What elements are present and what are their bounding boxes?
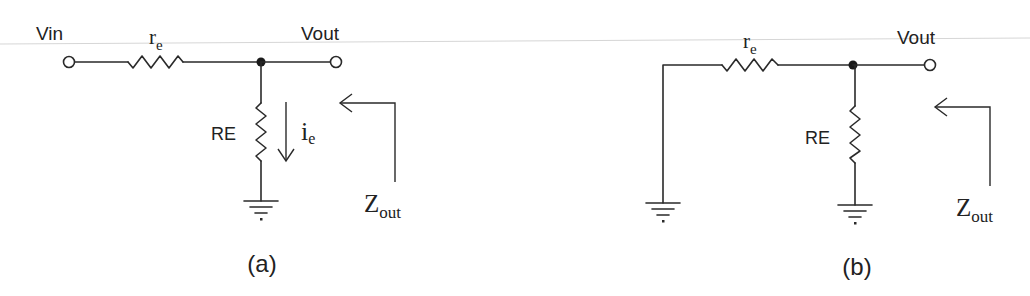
ground-icon [838, 205, 872, 225]
re-small-label: re [149, 25, 163, 53]
vout-terminal-icon [331, 57, 342, 68]
current-arrow-icon [278, 102, 294, 161]
vin-terminal-icon [64, 57, 75, 68]
panel-a: Vin re Vout RE ie [36, 23, 401, 277]
circuit-figure: Vin re Vout RE ie [0, 0, 1030, 296]
panel-b-caption: (b) [842, 253, 871, 280]
resistor-RE-icon [850, 106, 860, 163]
circuit-diagram-svg: Vin re Vout RE ie [0, 0, 1030, 296]
ie-label: ie [301, 117, 315, 147]
ground-icon [646, 203, 680, 223]
resistor-re-small-icon [128, 56, 183, 68]
vin-label: Vin [36, 23, 63, 44]
RE-label: RE [211, 124, 236, 144]
re-small-label: re [743, 29, 757, 57]
resistor-RE-icon [256, 103, 266, 161]
vout-label: Vout [301, 23, 340, 44]
panel-a-caption: (a) [247, 250, 276, 277]
vout-terminal-icon [925, 60, 936, 71]
panel-b: re Vout RE Zout (b) [646, 27, 993, 280]
zout-label: Zout [364, 190, 401, 222]
zout-label: Zout [956, 194, 993, 226]
RE-label: RE [805, 128, 830, 148]
wire [663, 65, 722, 203]
zout-arrow-icon [935, 98, 990, 186]
resistor-re-small-icon [722, 59, 778, 71]
ground-icon [244, 201, 278, 221]
vout-label: Vout [897, 27, 936, 48]
zout-arrow-icon [340, 94, 395, 182]
